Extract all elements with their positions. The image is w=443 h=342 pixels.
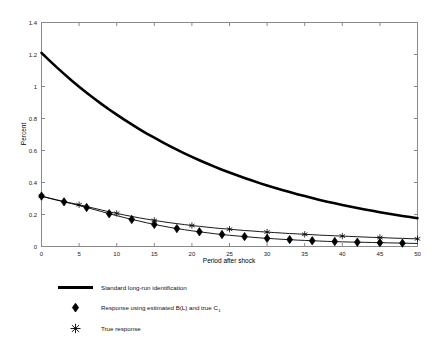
y-tick-label: 0.2 bbox=[29, 212, 38, 218]
y-axis-label: Percent bbox=[20, 123, 27, 146]
y-tick-label: 0.4 bbox=[29, 180, 38, 186]
x-tick-label: 40 bbox=[339, 251, 346, 257]
x-tick-label: 30 bbox=[264, 251, 271, 257]
x-tick-label: 10 bbox=[113, 251, 120, 257]
y-tick-label: 1.2 bbox=[29, 52, 38, 58]
legend-label-true: True response bbox=[101, 325, 141, 332]
x-tick-label: 45 bbox=[377, 251, 384, 257]
legend-star-icon bbox=[71, 324, 81, 333]
impulse-response-chart: 05101520253035404550 00.20.40.60.811.21.… bbox=[0, 0, 443, 342]
y-tick-label: 0.6 bbox=[29, 148, 38, 154]
x-axis-label: Period after shock bbox=[203, 257, 256, 264]
y-tick-label: 0.8 bbox=[29, 116, 38, 122]
x-tick-label: 15 bbox=[151, 251, 158, 257]
x-tick-label: 50 bbox=[414, 251, 421, 257]
y-tick-label: 1.4 bbox=[29, 20, 38, 26]
legend-label-estimated: Response using estimated B(L) and true C bbox=[101, 304, 218, 311]
legend-label-standard: Standard long-run identification bbox=[101, 284, 187, 291]
x-tick-label: 35 bbox=[301, 251, 308, 257]
x-tick-label: 20 bbox=[189, 251, 196, 257]
figure-background bbox=[0, 0, 443, 342]
